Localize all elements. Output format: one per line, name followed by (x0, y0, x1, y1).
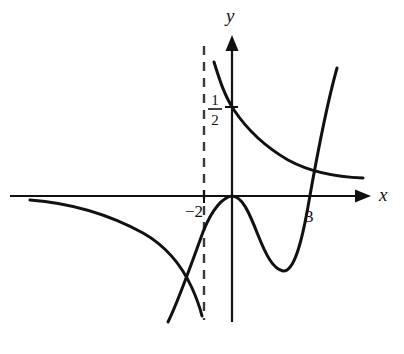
vertical-axis (226, 35, 239, 322)
horizontal-axis (10, 190, 371, 203)
label-minus-two: −2 (185, 202, 203, 221)
label-three: 3 (305, 207, 314, 226)
curve-hyperbola-right-branch (214, 62, 363, 178)
label-one-half: 1 2 (208, 92, 222, 128)
one-half-numerator: 1 (211, 92, 219, 108)
one-half-denominator: 2 (211, 112, 219, 128)
curve-hyperbola-left-branch (30, 200, 202, 316)
y-axis-arrowhead (226, 35, 239, 51)
y-axis-label: y (224, 5, 235, 26)
math-figure: y x 1 2 −2 3 (0, 0, 404, 354)
x-axis-label: x (378, 184, 388, 205)
x-axis-arrowhead (355, 190, 371, 203)
